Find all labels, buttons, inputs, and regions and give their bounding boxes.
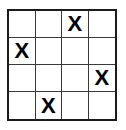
- grid-cell-r3c2[interactable]: [62, 92, 89, 119]
- cell-mark: X: [14, 40, 29, 62]
- grid-cell-r1c0[interactable]: X: [9, 38, 36, 65]
- grid-cell-r2c2[interactable]: [62, 65, 89, 92]
- grid-cell-r0c3[interactable]: [89, 11, 116, 38]
- cell-mark: X: [94, 67, 109, 89]
- canvas: X X X X: [0, 0, 126, 130]
- grid-cell-r1c1[interactable]: [36, 38, 63, 65]
- grid-cell-r1c3[interactable]: [89, 38, 116, 65]
- grid-cell-r2c0[interactable]: [9, 65, 36, 92]
- grid-cell-r0c0[interactable]: [9, 11, 36, 38]
- grid-cell-r2c1[interactable]: [36, 65, 63, 92]
- cell-mark: X: [67, 13, 82, 35]
- grid-cell-r2c3[interactable]: X: [89, 65, 116, 92]
- grid-cell-r1c2[interactable]: [62, 38, 89, 65]
- grid-cell-r3c3[interactable]: [89, 92, 116, 119]
- grid-cell-r0c2[interactable]: X: [62, 11, 89, 38]
- cell-mark: X: [41, 94, 56, 116]
- grid-cell-r3c1[interactable]: X: [36, 92, 63, 119]
- grid-cell-r3c0[interactable]: [9, 92, 36, 119]
- puzzle-grid: X X X X: [7, 9, 117, 121]
- grid-cell-r0c1[interactable]: [36, 11, 63, 38]
